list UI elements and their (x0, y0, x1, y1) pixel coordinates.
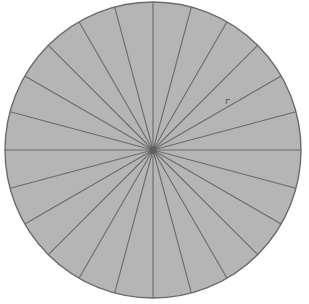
center-hub (149, 146, 157, 154)
radius-label: r (225, 96, 230, 106)
sector-circle-diagram: r (0, 0, 309, 304)
